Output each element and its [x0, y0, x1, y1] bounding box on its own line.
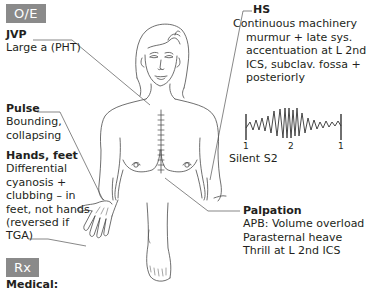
pulse-title: Pulse [6, 102, 62, 115]
pulse-line: collapsing [6, 129, 62, 142]
hands-feet-line: cyanosis + [6, 176, 90, 189]
pulse-annotation: Pulse Bounding, collapsing [6, 102, 62, 142]
hs-line: accentuation at L 2nd [246, 44, 366, 57]
palpation-leader [165, 178, 240, 211]
hs-line: murmur + late sys. [246, 31, 352, 44]
jvp-title: JVP [6, 28, 81, 41]
hs-line: posteriorly [246, 71, 305, 84]
hands-feet-annotation: Hands, feet Differential cyanosis + club… [6, 149, 90, 243]
palpation-line: APB: Volume overload [243, 217, 364, 230]
waveform-label-s1-next: 1 [338, 140, 344, 153]
rx-medical-heading: Medical: [6, 278, 58, 291]
hands-feet-line: clubbing – in [6, 189, 90, 202]
hs-line: ICS, subclav. fossa + [246, 58, 361, 71]
heart-sound-waveform [246, 108, 341, 140]
palpation-title: Palpation [243, 204, 364, 217]
jvp-annotation: JVP Large a (PHT) [6, 28, 81, 55]
hs-line: Continuous machinery [233, 17, 357, 30]
pulse-line: Bounding, [6, 115, 62, 128]
waveform-label-s2: 2 [288, 140, 294, 153]
head-outline [136, 24, 189, 88]
palpation-line: Thrill at L 2nd ICS [243, 244, 364, 257]
palpation-annotation: Palpation APB: Volume overload Parastern… [243, 204, 364, 258]
oe-section-badge: O/E [6, 4, 46, 23]
waveform-caption: Silent S2 [229, 152, 278, 165]
palpation-line: Parasternal heave [243, 231, 364, 244]
hands-feet-line: feet, not hands [6, 203, 90, 216]
hands-feet-line: Differential [6, 162, 90, 175]
hands-feet-title: Hands, feet [6, 149, 90, 162]
hs-title-bold: HS [253, 3, 270, 16]
hands-feet-line: (reversed if [6, 216, 90, 229]
rx-section-badge: Rx [6, 258, 39, 277]
jvp-line: Large a (PHT) [6, 41, 81, 54]
foot-drawing [147, 203, 170, 281]
hands-feet-line: TGA) [6, 229, 90, 242]
